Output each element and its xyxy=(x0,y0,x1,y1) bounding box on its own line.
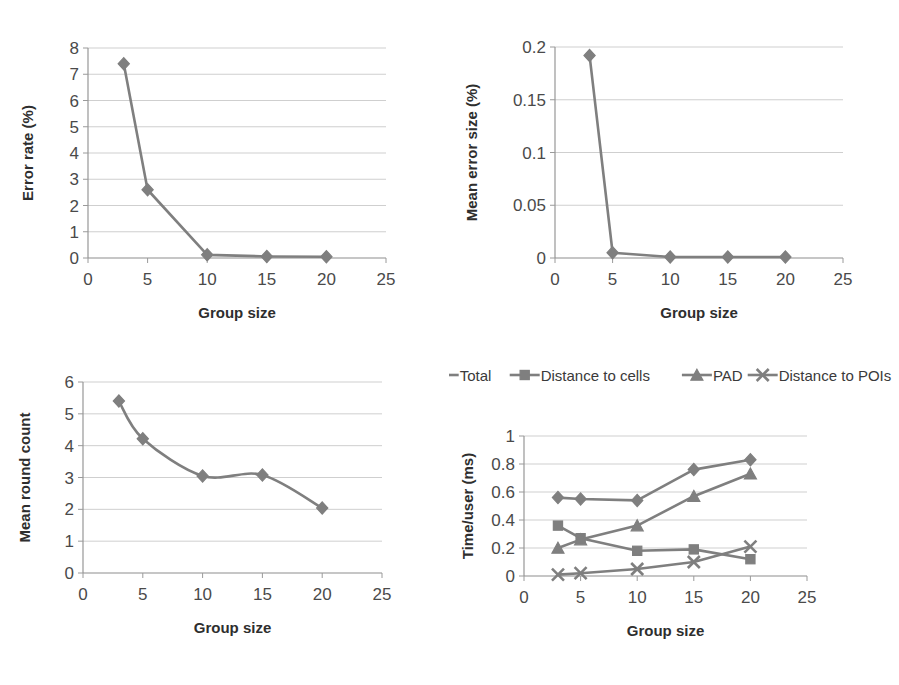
data-point-marker-diamond-2 xyxy=(665,251,676,263)
legend-item-distance-to-pois[interactable]: Distance to POIs xyxy=(748,367,892,384)
error-size-chart: 00.050.10.150.20510152025Group sizeMean … xyxy=(449,0,899,342)
y-tick-label-1: 0.2 xyxy=(491,539,515,558)
y-tick-label-3: 3 xyxy=(65,469,74,488)
legend-label: Distance to cells xyxy=(541,367,650,384)
legend-item-total[interactable]: Total xyxy=(449,367,491,384)
x-tick-label-4: 20 xyxy=(741,588,760,607)
x-tick-label-5: 25 xyxy=(373,585,392,604)
x-tick-label-2: 10 xyxy=(198,270,217,289)
y-tick-label-1: 1 xyxy=(65,532,74,551)
y-tick-label-3: 0.6 xyxy=(491,483,515,502)
series-line xyxy=(558,474,750,548)
data-point-marker-triangle-4 xyxy=(744,468,756,479)
x-tick-label-1: 5 xyxy=(138,585,147,604)
y-tick-label-0: 0 xyxy=(506,567,515,586)
y-tick-label-0: 0 xyxy=(65,564,74,583)
series-round-count xyxy=(113,395,328,514)
y-tick-label-4: 4 xyxy=(65,437,74,456)
y-tick-label-2: 2 xyxy=(65,500,74,519)
y-tick-label-1: 0.05 xyxy=(513,196,546,215)
y-axis-title: Mean error size (%) xyxy=(463,84,480,222)
series-error-size xyxy=(584,49,791,263)
data-point-marker-diamond-1 xyxy=(575,493,586,505)
y-tick-label-2: 2 xyxy=(70,197,79,216)
series-distance-to-pois xyxy=(552,541,756,581)
time-user-plot: 00.20.40.60.810510152025Group sizeTime/u… xyxy=(449,367,891,640)
error-rate-plot: 0123456780510152025Group sizeError rate … xyxy=(19,39,395,321)
y-tick-label-4: 4 xyxy=(70,144,79,163)
series-line xyxy=(124,64,327,257)
chart-panel-error-rate: 0123456780510152025Group sizeError rate … xyxy=(0,0,450,342)
series-line xyxy=(558,460,750,501)
data-point-marker-square-legend xyxy=(520,370,529,379)
x-tick-label-4: 20 xyxy=(776,270,795,289)
x-tick-label-3: 15 xyxy=(257,270,276,289)
y-axis: 00.050.10.150.2 xyxy=(513,38,555,268)
gridlines xyxy=(555,47,843,258)
x-tick-label-1: 5 xyxy=(143,270,152,289)
x-axis: 0510152025 xyxy=(550,258,852,289)
x-tick-label-2: 10 xyxy=(193,585,212,604)
y-axis: 012345678 xyxy=(70,39,88,268)
data-point-marker-diamond-4 xyxy=(317,502,328,514)
data-point-marker-diamond-0 xyxy=(118,58,129,70)
data-point-marker-diamond-3 xyxy=(261,250,272,262)
data-point-marker-diamond-1 xyxy=(607,247,618,259)
y-tick-label-3: 3 xyxy=(70,170,79,189)
legend-item-distance-to-cells[interactable]: Distance to cells xyxy=(510,367,650,384)
gridlines xyxy=(88,48,386,258)
x-tick-label-5: 25 xyxy=(377,270,396,289)
y-tick-label-5: 1 xyxy=(506,427,515,446)
x-tick-label-3: 15 xyxy=(718,270,737,289)
series-total xyxy=(552,454,756,507)
data-point-marker-diamond-3 xyxy=(688,464,699,476)
error-rate-chart: 0123456780510152025Group sizeError rate … xyxy=(0,0,450,342)
y-tick-label-8: 8 xyxy=(70,39,79,58)
figure-grid: 0123456780510152025Group sizeError rate … xyxy=(0,0,899,685)
x-tick-label-0: 0 xyxy=(519,588,528,607)
data-point-marker-square-3 xyxy=(689,545,698,554)
y-tick-label-0: 0 xyxy=(70,249,79,268)
data-point-marker-diamond-4 xyxy=(321,251,332,263)
y-tick-label-6: 6 xyxy=(65,373,74,392)
y-tick-label-5: 5 xyxy=(70,118,79,137)
x-axis-title: Group size xyxy=(660,304,738,321)
y-axis: 00.20.40.60.81 xyxy=(491,427,524,586)
data-point-marker-diamond-4 xyxy=(780,251,791,263)
x-tick-label-0: 0 xyxy=(550,270,559,289)
x-tick-label-4: 20 xyxy=(313,585,332,604)
x-tick-label-1: 5 xyxy=(608,270,617,289)
y-tick-label-5: 5 xyxy=(65,405,74,424)
x-tick-label-3: 15 xyxy=(253,585,272,604)
chart-panel-error-size: 00.050.10.150.20510152025Group sizeMean … xyxy=(449,0,899,342)
y-tick-label-1: 1 xyxy=(70,223,79,242)
y-tick-label-4: 0.8 xyxy=(491,455,515,474)
y-tick-label-3: 0.15 xyxy=(513,91,546,110)
x-tick-label-1: 5 xyxy=(576,588,585,607)
y-tick-label-7: 7 xyxy=(70,65,79,84)
x-tick-label-5: 25 xyxy=(834,270,853,289)
round-count-plot: 01234560510152025Group sizeMean round co… xyxy=(16,373,391,636)
x-tick-label-2: 10 xyxy=(628,588,647,607)
y-axis: 0123456 xyxy=(65,373,83,583)
data-point-marker-diamond-3 xyxy=(257,469,268,481)
gridlines xyxy=(83,382,382,573)
data-point-marker-diamond-0 xyxy=(552,492,563,504)
x-axis-title: Group size xyxy=(627,622,705,639)
round-count-chart: 01234560510152025Group sizeMean round co… xyxy=(0,342,450,685)
series-line xyxy=(119,401,322,508)
gridlines xyxy=(524,436,807,576)
y-tick-label-2: 0.4 xyxy=(491,511,515,530)
legend-item-pad[interactable]: PAD xyxy=(682,367,743,384)
x-axis-title: Group size xyxy=(194,619,272,636)
y-tick-label-2: 0.1 xyxy=(522,144,546,163)
x-tick-label-0: 0 xyxy=(78,585,87,604)
y-tick-label-0: 0 xyxy=(537,249,546,268)
data-point-marker-diamond-3 xyxy=(722,251,733,263)
time-user-chart: 00.20.40.60.810510152025Group sizeTime/u… xyxy=(449,342,899,685)
x-tick-label-2: 10 xyxy=(661,270,680,289)
y-axis-title: Time/user (ms) xyxy=(459,453,476,559)
chart-panel-round-count: 01234560510152025Group sizeMean round co… xyxy=(0,342,450,685)
data-point-marker-diamond-0 xyxy=(584,49,595,61)
error-size-plot: 00.050.10.150.20510152025Group sizeMean … xyxy=(463,38,852,321)
